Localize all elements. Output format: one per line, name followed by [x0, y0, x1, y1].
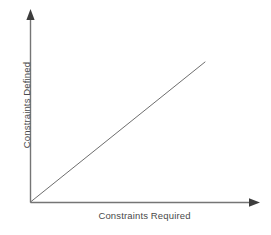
x-axis-arrowhead-icon [249, 198, 260, 207]
data-line-series-0 [31, 62, 206, 202]
chart-container: Constraints Required Constraints Defined [0, 0, 271, 235]
y-axis-label: Constraints Defined [21, 25, 32, 185]
y-axis-arrowhead-icon [26, 9, 34, 20]
chart-plot-area [0, 0, 271, 235]
x-axis-label: Constraints Required [9, 210, 271, 221]
